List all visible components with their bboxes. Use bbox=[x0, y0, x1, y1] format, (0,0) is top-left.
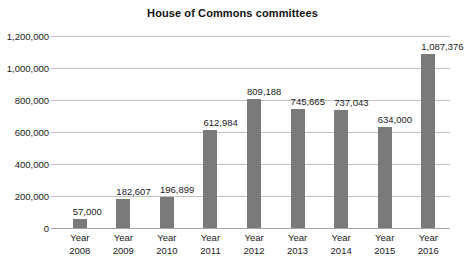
y-axis-tick bbox=[51, 132, 58, 133]
x-label-line1: Year bbox=[102, 232, 146, 245]
plot-area: 0200,000400,000600,000800,0001,000,0001,… bbox=[58, 36, 450, 228]
bar-value-label: 182,607 bbox=[116, 186, 150, 197]
x-label-line2: 2014 bbox=[319, 245, 363, 258]
y-axis-tick-label: 0 bbox=[44, 223, 49, 234]
x-label-line1: Year bbox=[58, 232, 102, 245]
bar-slot: 634,000 bbox=[363, 36, 407, 228]
bar[interactable]: 196,899 bbox=[160, 197, 174, 229]
y-axis-tick bbox=[51, 68, 58, 69]
x-axis-category-label: Year2010 bbox=[145, 232, 189, 257]
axis-baseline: 0 bbox=[58, 228, 450, 229]
bar-value-label: 809,188 bbox=[247, 86, 281, 97]
x-label-line1: Year bbox=[407, 232, 451, 245]
x-axis-category-label: Year2013 bbox=[276, 232, 320, 257]
x-label-line1: Year bbox=[189, 232, 233, 245]
y-axis-tick-label: 600,000 bbox=[15, 127, 49, 138]
y-axis-tick bbox=[51, 196, 58, 197]
x-axis-category-label: Year2012 bbox=[232, 232, 276, 257]
x-label-line1: Year bbox=[319, 232, 363, 245]
bar[interactable]: 737,043 bbox=[334, 110, 348, 228]
bar-slot: 745,665 bbox=[276, 36, 320, 228]
y-axis-tick bbox=[51, 228, 58, 229]
x-label-line2: 2013 bbox=[276, 245, 320, 258]
bar-value-label: 634,000 bbox=[378, 114, 412, 125]
bar-value-label: 1,087,376 bbox=[421, 41, 463, 52]
bar[interactable]: 1,087,376 bbox=[421, 54, 435, 228]
bar-slot: 1,087,376 bbox=[407, 36, 451, 228]
x-label-line2: 2015 bbox=[363, 245, 407, 258]
bar-value-label: 196,899 bbox=[160, 184, 194, 195]
x-axis-category-label: Year2009 bbox=[102, 232, 146, 257]
bar-series: 57,000182,607196,899612,984809,188745,66… bbox=[58, 36, 450, 228]
x-label-line2: 2011 bbox=[189, 245, 233, 258]
bar-value-label: 737,043 bbox=[334, 97, 368, 108]
x-axis-category-label: Year2015 bbox=[363, 232, 407, 257]
chart-title: House of Commons committees bbox=[0, 7, 465, 19]
x-axis-category-label: Year2011 bbox=[189, 232, 233, 257]
bar-value-label: 57,000 bbox=[73, 206, 102, 217]
x-label-line2: 2010 bbox=[145, 245, 189, 258]
bar-slot: 809,188 bbox=[232, 36, 276, 228]
x-label-line1: Year bbox=[232, 232, 276, 245]
y-axis-tick-label: 200,000 bbox=[15, 191, 49, 202]
bar[interactable]: 745,665 bbox=[291, 109, 305, 228]
bar[interactable]: 182,607 bbox=[116, 199, 130, 228]
bar-chart: House of Commons committees 0200,000400,… bbox=[0, 0, 465, 272]
x-label-line2: 2008 bbox=[58, 245, 102, 258]
y-axis-tick-label: 400,000 bbox=[15, 159, 49, 170]
bar-value-label: 612,984 bbox=[203, 117, 237, 128]
x-label-line1: Year bbox=[145, 232, 189, 245]
y-axis-tick bbox=[51, 100, 58, 101]
y-axis-tick bbox=[51, 164, 58, 165]
x-axis-labels: Year2008Year2009Year2010Year2011Year2012… bbox=[58, 232, 450, 257]
x-label-line2: 2016 bbox=[407, 245, 451, 258]
bar[interactable]: 809,188 bbox=[247, 99, 261, 228]
x-axis-category-label: Year2016 bbox=[407, 232, 451, 257]
x-label-line1: Year bbox=[363, 232, 407, 245]
x-axis-category-label: Year2014 bbox=[319, 232, 363, 257]
y-axis-tick-label: 800,000 bbox=[15, 95, 49, 106]
bar-value-label: 745,665 bbox=[291, 96, 325, 107]
x-axis-category-label: Year2008 bbox=[58, 232, 102, 257]
bar[interactable]: 612,984 bbox=[203, 130, 217, 228]
y-axis-tick bbox=[51, 36, 58, 37]
bar-slot: 182,607 bbox=[102, 36, 146, 228]
y-axis-tick-label: 1,000,000 bbox=[7, 63, 49, 74]
bar-slot: 737,043 bbox=[319, 36, 363, 228]
bar[interactable]: 634,000 bbox=[378, 127, 392, 228]
y-axis-tick-label: 1,200,000 bbox=[7, 31, 49, 42]
bar-slot: 612,984 bbox=[189, 36, 233, 228]
bar-slot: 196,899 bbox=[145, 36, 189, 228]
bar-slot: 57,000 bbox=[58, 36, 102, 228]
x-label-line2: 2012 bbox=[232, 245, 276, 258]
x-label-line1: Year bbox=[276, 232, 320, 245]
x-label-line2: 2009 bbox=[102, 245, 146, 258]
bar[interactable]: 57,000 bbox=[73, 219, 87, 228]
